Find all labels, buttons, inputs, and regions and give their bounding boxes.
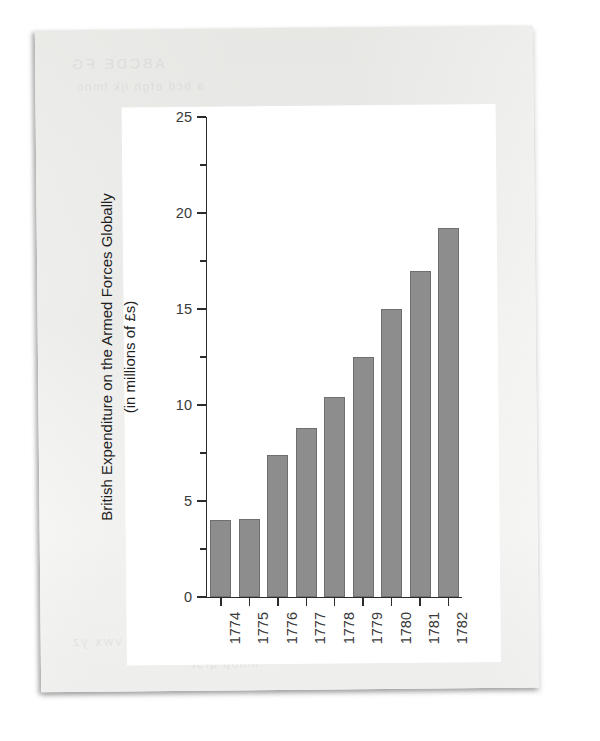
bar-1775 <box>239 519 260 597</box>
bar-1777 <box>296 428 317 597</box>
y-tick-label-text: 0 <box>184 589 192 605</box>
x-tick <box>334 597 335 606</box>
x-tick <box>249 597 250 606</box>
y-tick-minor <box>200 260 206 261</box>
y-tick-major <box>197 212 206 213</box>
x-tick-label: 1781 <box>426 612 442 644</box>
y-axis-title-line-2: (in millions of £s) <box>118 193 141 521</box>
x-tick-label: 1776 <box>284 612 300 644</box>
x-tick <box>277 597 278 606</box>
x-tick-label: 1774 <box>227 612 243 644</box>
x-tick-label: 1777 <box>312 612 328 644</box>
y-tick-label-text: 25 <box>176 109 192 125</box>
x-tick-label: 1775 <box>255 612 271 644</box>
y-axis-title-line-1: British Expenditure on the Armed Forces … <box>96 193 119 521</box>
y-tick-minor <box>200 164 206 165</box>
x-tick-label: 1779 <box>369 612 385 644</box>
y-axis-line <box>206 117 207 598</box>
x-tick <box>220 597 221 606</box>
bar-1779 <box>353 357 374 597</box>
x-tick <box>391 597 392 606</box>
x-tick <box>306 597 307 606</box>
y-tick-label-text: 15 <box>176 301 192 317</box>
y-tick-major <box>197 500 206 501</box>
y-tick-major <box>197 596 206 597</box>
y-tick-minor <box>200 548 206 549</box>
x-tick-label: 1780 <box>398 612 414 644</box>
y-tick-major <box>197 404 206 405</box>
y-tick-major <box>197 116 206 117</box>
bar-1778 <box>324 397 345 597</box>
bar-1774 <box>210 520 231 597</box>
scanned-page-root: ABCDE FG a bcd efgh ijk lmno qrstu vwx y… <box>0 0 600 741</box>
x-tick <box>448 597 449 606</box>
x-tick-label: 1782 <box>454 612 470 644</box>
y-tick-label-text: 20 <box>176 205 192 221</box>
bar-1780 <box>381 309 402 597</box>
x-tick <box>362 597 363 606</box>
bar-chart: 0510152025 17741775177617771778177917801… <box>0 0 600 741</box>
x-tick-label: 1778 <box>341 612 357 644</box>
y-tick-minor <box>200 356 206 357</box>
y-tick-label-text: 10 <box>176 397 192 413</box>
x-tick <box>419 597 420 606</box>
bar-1776 <box>267 455 288 597</box>
bar-1782 <box>438 228 459 597</box>
y-tick-label-text: 5 <box>184 493 192 509</box>
bar-1781 <box>410 271 431 597</box>
y-tick-minor <box>200 452 206 453</box>
y-tick-major <box>197 308 206 309</box>
